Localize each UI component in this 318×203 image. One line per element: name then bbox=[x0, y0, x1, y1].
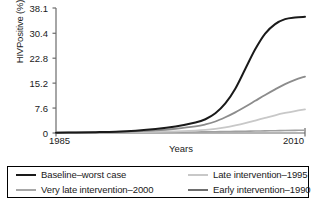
legend-label-very-late-intervention-2000: Very late intervention–2000 bbox=[41, 184, 153, 195]
chart-canvas bbox=[0, 0, 318, 160]
legend-label-early-intervention-1990: Early intervention–1990 bbox=[213, 184, 311, 195]
series-line-late-intervention-1995 bbox=[56, 109, 305, 132]
x-axis-title: Years bbox=[56, 143, 306, 154]
legend-swatch-very-late-intervention-2000 bbox=[16, 189, 36, 191]
legend-swatch-early-intervention-1990 bbox=[188, 189, 208, 191]
chart-legend: Baseline–worst case Late intervention–19… bbox=[7, 166, 309, 198]
legend-swatch-late-intervention-1995 bbox=[188, 174, 208, 176]
chart-plot-area: 38.1 30.4 22.8 15.2 7.6 0 HIVPositive (%… bbox=[0, 0, 318, 160]
figure: 38.1 30.4 22.8 15.2 7.6 0 HIVPositive (%… bbox=[0, 0, 318, 203]
legend-item-late-intervention-1995[interactable]: Late intervention–1995 bbox=[180, 169, 310, 180]
legend-label-late-intervention-1995: Late intervention–1995 bbox=[213, 169, 307, 180]
series-line-early-intervention-1990 bbox=[56, 77, 305, 133]
legend-label-baseline-worst-case: Baseline–worst case bbox=[41, 169, 126, 180]
series-line-baseline-worst-case bbox=[56, 17, 305, 133]
legend-item-early-intervention-1990[interactable]: Early intervention–1990 bbox=[180, 184, 310, 195]
legend-item-very-late-intervention-2000[interactable]: Very late intervention–2000 bbox=[8, 184, 180, 195]
legend-item-baseline-worst-case[interactable]: Baseline–worst case bbox=[8, 169, 180, 180]
data-curves bbox=[56, 17, 305, 133]
legend-swatch-baseline-worst-case bbox=[16, 174, 36, 176]
